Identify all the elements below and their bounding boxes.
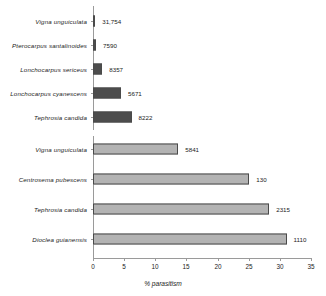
bar-annotation: 8357 <box>109 66 123 73</box>
bar-annotation: 7590 <box>103 42 117 49</box>
bar-group: 2315 <box>93 204 290 215</box>
table-row: Tephrosia candida 8222 <box>0 106 326 128</box>
category-label: Lonchocarpus cyanescens <box>10 90 87 97</box>
table-row: Pterocarpus santalinoides 7590 <box>0 34 326 56</box>
category-label: Lonchocarpus sericeus <box>20 66 87 73</box>
upper-panel: Vigna unguiculata 31,754 Pterocarpus san… <box>0 6 326 130</box>
category-label: Dioclea guianensis <box>32 236 87 243</box>
bar <box>93 204 269 215</box>
x-tick-label: 35 <box>307 263 314 270</box>
x-tick-label: 20 <box>214 263 221 270</box>
table-row: Lonchocarpus sericeus 8357 <box>0 58 326 80</box>
x-tick-label: 30 <box>276 263 283 270</box>
bar-group: 8222 <box>93 112 152 123</box>
x-tick-label: 15 <box>182 263 189 270</box>
bar <box>93 64 102 75</box>
bar-annotation: 8222 <box>139 114 153 121</box>
bar-group: 130 <box>93 174 267 185</box>
table-row: Lonchocarpus cyanescens 5671 <box>0 82 326 104</box>
bar-annotation: 2315 <box>276 206 290 213</box>
category-label: Centrosema pubescens <box>19 176 87 183</box>
bar-group: 7590 <box>93 40 117 51</box>
bar <box>93 88 121 99</box>
bar-group: 8357 <box>93 64 123 75</box>
table-row: Dioclea guianensis 1110 <box>0 228 326 250</box>
category-label: Vigna unguiculata <box>35 146 87 153</box>
bar <box>93 112 132 123</box>
table-row: Tephrosia candida 2315 <box>0 198 326 220</box>
x-axis: 0 5 10 15 20 25 30 35 % parasitism <box>0 258 326 296</box>
x-tick-label: 0 <box>91 263 95 270</box>
bar-annotation: 5671 <box>128 90 142 97</box>
x-tick-label: 5 <box>122 263 126 270</box>
bar-annotation: 1110 <box>294 236 307 243</box>
category-label: Pterocarpus santalinoides <box>12 42 87 49</box>
table-row: Vigna unguiculata 5841 <box>0 138 326 160</box>
table-row: Vigna unguiculata 31,754 <box>0 10 326 32</box>
x-tick-label: 25 <box>245 263 252 270</box>
bar-group: 5671 <box>93 88 142 99</box>
category-label: Tephrosia candida <box>34 206 87 213</box>
category-label: Vigna unguiculata <box>35 18 87 25</box>
bar <box>93 40 96 51</box>
category-label: Tephrosia candida <box>34 114 87 121</box>
x-tick-label: 10 <box>151 263 158 270</box>
parasitism-bar-chart: Vigna unguiculata 31,754 Pterocarpus san… <box>0 0 326 296</box>
lower-panel: Vigna unguiculata 5841 Centrosema pubesc… <box>0 136 326 258</box>
bar-group: 5841 <box>93 144 199 155</box>
bar <box>93 174 249 185</box>
x-axis-title: % parasitism <box>0 280 326 287</box>
bar <box>93 234 287 245</box>
bar-annotation: 5841 <box>185 146 199 153</box>
bar <box>93 144 178 155</box>
bar-group: 1110 <box>93 234 306 245</box>
table-row: Centrosema pubescens 130 <box>0 168 326 190</box>
bar-annotation: 31,754 <box>102 18 121 25</box>
bar-group: 31,754 <box>93 16 121 27</box>
bar <box>93 16 95 27</box>
bar-annotation: 130 <box>256 176 266 183</box>
x-axis-line <box>93 258 311 259</box>
